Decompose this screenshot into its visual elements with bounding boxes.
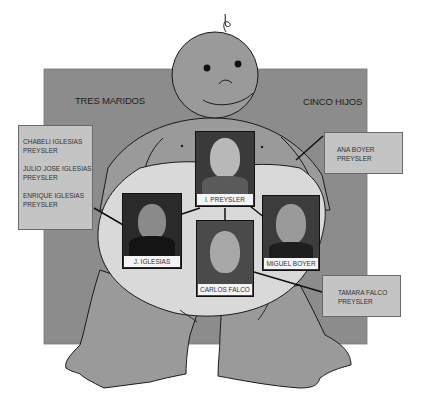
caption-i-preysler: I. PREYSLER [197, 194, 253, 205]
portrait-face [210, 138, 240, 178]
left-eye [204, 65, 211, 72]
family-diagram: TRES MARIDOS CINCO HIJOS CHABELI IGLESIA… [0, 0, 426, 412]
heading-children: CINCO HIJOS [303, 96, 362, 107]
child-ana: ANA BOYERPREYSLER [337, 145, 402, 163]
nipple-left [181, 145, 183, 147]
children-box-falco: TAMARA FALCOPREYSLER [322, 275, 401, 317]
nipple-right [261, 146, 263, 148]
children-box-boyer: ANA BOYERPREYSLER [324, 132, 403, 174]
heading-husbands: TRES MARIDOS [75, 95, 145, 106]
child-chabeli: CHABELI IGLESIASPREYSLER [23, 137, 92, 155]
portrait-face [210, 231, 240, 273]
portrait-face [138, 204, 166, 240]
child-enrique: ENRIQUE IGLESIASPREYSLER [23, 191, 92, 209]
portrait-face [276, 204, 306, 244]
photo-i-preysler: I. PREYSLER [195, 131, 255, 207]
caption-miguel-boyer: MIGUEL BOYER [264, 258, 318, 269]
portrait-shoulders [202, 176, 248, 194]
right-eye [235, 61, 242, 68]
hair-curl [224, 14, 230, 32]
caption-j-iglesias: J. IGLESIAS [124, 256, 180, 267]
children-box-iglesias: CHABELI IGLESIASPREYSLER JULIO JOSE IGLE… [18, 125, 93, 230]
portrait-shoulders [129, 236, 175, 256]
photo-carlos-falco: CARLOS FALCO [196, 220, 254, 297]
photo-j-iglesias: J. IGLESIAS [122, 193, 182, 269]
photo-miguel-boyer: MIGUEL BOYER [262, 195, 320, 271]
caption-carlos-falco: CARLOS FALCO [198, 284, 252, 295]
head [172, 32, 258, 118]
portrait-shoulders [269, 242, 314, 258]
child-julio-jose: JULIO JOSE IGLESIASPREYSLER [23, 164, 92, 182]
child-tamara: TAMARA FALCOPREYSLER [338, 288, 400, 306]
